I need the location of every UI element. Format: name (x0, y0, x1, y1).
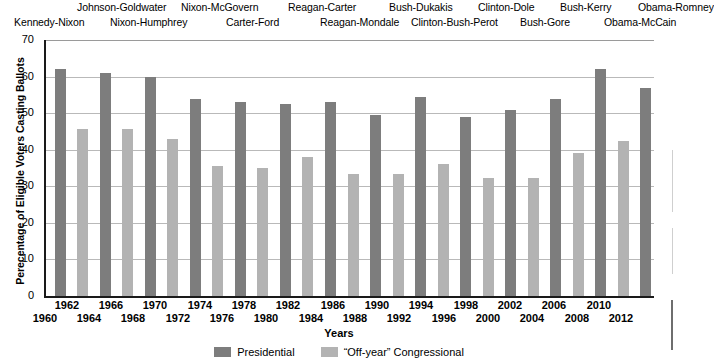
election-label-carter-ford: Carter-Ford (226, 16, 279, 29)
legend-swatch-offyear-icon (321, 347, 338, 357)
bar-2008 (595, 69, 606, 296)
election-label-johnson-goldwater: Johnson-Goldwater (77, 1, 166, 14)
bar-1986 (348, 174, 359, 296)
election-label-kennedy-nixon: Kennedy-Nixon (14, 16, 85, 29)
x-tick-1996: 1996 (426, 312, 462, 324)
bar-1970 (167, 139, 178, 296)
y-tick-10: 10 (0, 253, 34, 264)
x-tick-2002: 2002 (492, 299, 528, 311)
bar-2012 (640, 88, 651, 296)
bar-1998 (483, 178, 494, 296)
x-tick-1962: 1962 (49, 299, 85, 311)
x-tick-1992: 1992 (381, 312, 417, 324)
scan-artifact-lower (671, 300, 673, 350)
bar-2010 (618, 141, 629, 296)
x-tick-1998: 1998 (448, 299, 484, 311)
bar-1996 (460, 117, 471, 296)
bar-1972 (190, 99, 201, 296)
bar-1964 (100, 73, 111, 296)
x-tick-1970: 1970 (137, 299, 173, 311)
bar-1962 (77, 129, 88, 296)
bar-1988 (370, 115, 381, 296)
election-label-clinton-bush-perot: Clinton-Bush-Perot (411, 16, 498, 29)
bars-layer (46, 40, 654, 296)
election-label-bush-kerry: Bush-Kerry (560, 1, 612, 14)
election-label-obama-romney: Obama-Romney (638, 1, 714, 14)
bar-1976 (235, 102, 246, 296)
y-tick-60: 60 (0, 71, 34, 82)
x-axis-tick-labels: 1962 1966 1970 1974 1978 1982 1986 1990 … (0, 299, 678, 329)
x-axis-title: Years (0, 327, 678, 339)
chart-legend: Presidential “Off-year” Congressional (0, 345, 678, 359)
bar-1980 (280, 104, 291, 296)
x-tick-1976: 1976 (204, 312, 240, 324)
bar-2000 (505, 110, 516, 297)
election-row-lower: Kennedy-Nixon Nixon-Humphrey Carter-Ford… (0, 16, 678, 30)
y-tick-70: 70 (0, 34, 34, 45)
election-matchup-labels: Johnson-Goldwater Nixon-McGovern Reagan-… (0, 0, 678, 32)
x-tick-2010: 2010 (581, 299, 617, 311)
bar-1990 (393, 174, 404, 296)
bar-1982 (302, 157, 313, 296)
bar-1960 (55, 69, 66, 296)
bar-1984 (325, 102, 336, 296)
election-label-nixon-mcgovern: Nixon-McGovern (181, 1, 258, 14)
scan-artifact-mid (672, 228, 673, 274)
election-label-nixon-humphrey: Nixon-Humphrey (110, 16, 187, 29)
x-tick-1988: 1988 (337, 312, 373, 324)
bar-1992 (415, 97, 426, 296)
plot-area (44, 40, 654, 298)
legend-label-presidential: Presidential (237, 347, 294, 358)
x-tick-1982: 1982 (270, 299, 306, 311)
x-tick-1986: 1986 (315, 299, 351, 311)
x-tick-2004: 2004 (514, 312, 550, 324)
bar-2004 (550, 99, 561, 296)
x-tick-2012: 2012 (603, 312, 639, 324)
y-tick-20: 20 (0, 217, 34, 228)
y-tick-40: 40 (0, 144, 34, 155)
y-axis-tick-labels: 70 60 50 40 30 20 10 0 (0, 40, 40, 296)
x-tick-1968: 1968 (115, 312, 151, 324)
x-tick-2008: 2008 (559, 312, 595, 324)
bar-2006 (573, 153, 584, 296)
legend-label-offyear: “Off-year” Congressional (344, 347, 464, 358)
election-row-upper: Johnson-Goldwater Nixon-McGovern Reagan-… (0, 1, 678, 15)
x-tick-2000: 2000 (470, 312, 506, 324)
y-tick-30: 30 (0, 180, 34, 191)
x-tick-1964: 1964 (71, 312, 107, 324)
x-tick-1960: 1960 (27, 312, 63, 324)
legend-item-presidential: Presidential (214, 347, 294, 358)
x-tick-1978: 1978 (226, 299, 262, 311)
election-label-clinton-dole: Clinton-Dole (478, 1, 535, 14)
election-label-bush-dukakis: Bush-Dukakis (389, 1, 453, 14)
legend-item-offyear: “Off-year” Congressional (321, 347, 464, 358)
y-tick-50: 50 (0, 107, 34, 118)
x-tick-1990: 1990 (359, 299, 395, 311)
election-label-reagan-carter: Reagan-Carter (288, 1, 356, 14)
bar-1968 (145, 77, 156, 296)
x-tick-1974: 1974 (182, 299, 218, 311)
election-label-bush-gore: Bush-Gore (520, 16, 570, 29)
x-tick-1966: 1966 (93, 299, 129, 311)
bar-1978 (257, 168, 268, 296)
bar-1966 (122, 129, 133, 296)
election-label-reagan-mondale: Reagan-Mondale (320, 16, 399, 29)
election-label-obama-mccain: Obama-McCain (604, 16, 676, 29)
x-tick-1980: 1980 (248, 312, 284, 324)
bar-1994 (438, 164, 449, 296)
x-tick-2006: 2006 (536, 299, 572, 311)
bar-1974 (212, 166, 223, 296)
legend-swatch-presidential-icon (214, 347, 231, 357)
x-tick-1972: 1972 (160, 312, 196, 324)
scan-artifact-upper (672, 150, 673, 212)
x-tick-1984: 1984 (293, 312, 329, 324)
x-tick-1994: 1994 (403, 299, 439, 311)
bar-2002 (528, 178, 539, 296)
